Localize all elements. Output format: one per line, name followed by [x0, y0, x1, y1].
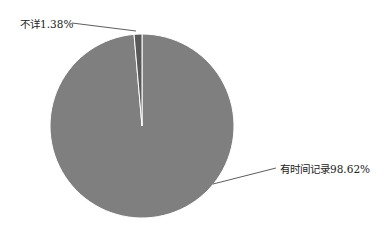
label-unknown: 不详1.38% [20, 16, 73, 31]
pie-chart [0, 0, 384, 233]
pie-slices [50, 34, 234, 218]
label-recorded: 有时间记录98.62% [280, 161, 370, 176]
leader-line-unknown [72, 23, 136, 31]
